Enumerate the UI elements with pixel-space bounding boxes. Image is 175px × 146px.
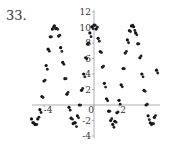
y-tick-label: 2 (85, 85, 91, 95)
data-point (152, 122, 155, 125)
data-point (106, 99, 109, 102)
data-point (138, 42, 141, 45)
data-point (108, 110, 111, 113)
data-point (65, 77, 68, 80)
y-tick-label: -4 (82, 131, 91, 141)
data-point (127, 41, 130, 44)
data-point (40, 111, 43, 114)
y-tick-label: 12 (80, 7, 91, 17)
data-point (44, 79, 47, 82)
data-point (88, 31, 91, 34)
y-tick-label: 4 (85, 69, 91, 79)
data-point (83, 75, 86, 78)
data-point (110, 117, 113, 120)
data-point (92, 27, 95, 30)
data-point (42, 96, 45, 99)
data-point (75, 125, 78, 128)
data-point (113, 126, 116, 129)
data-point (79, 104, 82, 107)
data-point (119, 103, 122, 106)
data-point (88, 42, 91, 45)
data-point (125, 50, 128, 53)
data-point (63, 63, 66, 66)
data-point (35, 123, 38, 126)
data-point (74, 121, 77, 124)
data-point (85, 57, 88, 60)
data-point (60, 50, 63, 53)
data-point (90, 35, 93, 38)
data-point (38, 116, 41, 119)
data-point (56, 28, 59, 31)
data-point (140, 72, 143, 75)
data-point (142, 75, 145, 78)
data-point (155, 69, 158, 72)
x-tick-label: -4 (44, 105, 53, 115)
data-point (111, 123, 114, 126)
data-point (30, 117, 33, 120)
data-point (100, 51, 103, 54)
data-point (156, 72, 159, 75)
data-point (67, 106, 70, 109)
data-point (154, 114, 157, 117)
data-point (82, 72, 85, 75)
data-point (59, 46, 62, 49)
data-point (146, 103, 149, 106)
data-point (46, 68, 49, 71)
data-point (77, 116, 80, 119)
data-point (98, 40, 101, 43)
data-point (103, 82, 106, 85)
y-tick-label: -2 (82, 116, 91, 126)
data-point (94, 24, 97, 27)
y-tick-label: 10 (80, 23, 92, 33)
data-point (67, 91, 70, 94)
data-point (38, 108, 41, 111)
data-point (69, 109, 72, 112)
data-point (97, 37, 100, 40)
data-point (71, 118, 74, 121)
data-point (135, 33, 138, 36)
data-point (123, 67, 126, 70)
data-point (132, 25, 135, 28)
scatter-chart: -4-224681012-402 (0, 0, 175, 146)
data-point (121, 85, 124, 88)
data-point (148, 118, 151, 121)
x-tick-label: 0 (88, 105, 94, 115)
x-tick-label: 2 (120, 105, 126, 115)
data-point (117, 110, 120, 113)
data-point (81, 87, 84, 90)
data-point (126, 38, 129, 41)
data-point (48, 50, 51, 53)
data-point (96, 26, 99, 29)
data-point (140, 55, 143, 58)
data-point (104, 86, 107, 89)
data-point (58, 34, 61, 37)
data-point (115, 121, 118, 124)
data-point (129, 30, 132, 33)
data-point (50, 35, 53, 38)
data-point (102, 65, 105, 68)
data-point (45, 64, 48, 67)
data-point (144, 90, 147, 93)
data-point (117, 99, 120, 102)
data-point (147, 114, 150, 117)
